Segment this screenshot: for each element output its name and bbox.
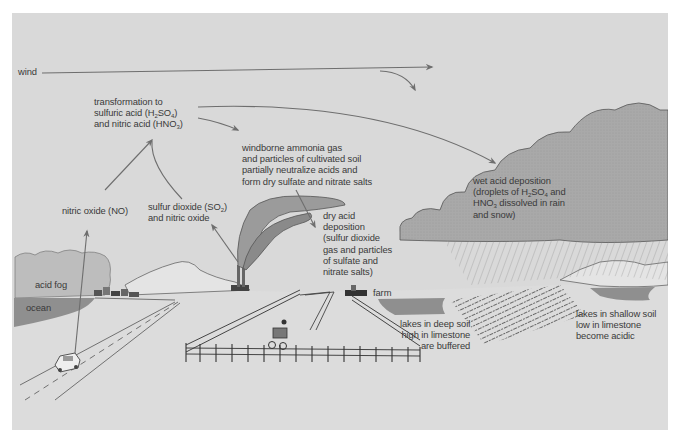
shallow-lakes-label: lakes in shallow soil low in limestone b…: [576, 308, 656, 342]
farmhouse-icon: [345, 285, 367, 296]
wind-arrow: [42, 67, 432, 73]
transformation-line2: sulfuric acid (H2SO4): [94, 107, 183, 118]
sulfur-dioxide-label: sulfur dioxide (SO2) and nitric oxide: [148, 201, 227, 223]
wind-branch-arrow: [380, 71, 415, 90]
stack-to-so2-arrow: [212, 225, 238, 262]
ammonia-label: windborne ammonia gas and particles of c…: [242, 142, 372, 187]
so2-to-transformation-arrow: [152, 141, 182, 199]
wind-label: wind: [18, 66, 37, 77]
cloud-icon: [400, 103, 668, 243]
transformation-line1: transformation to: [94, 96, 183, 107]
wet-deposition-label: wet acid deposition (droplets of H2SO4 a…: [473, 175, 566, 220]
transformation-label: transformation to sulfuric acid (H2SO4) …: [94, 96, 183, 130]
deep-lakes-label: lakes in deep soil high in limestone are…: [400, 318, 470, 352]
ocean-label: ocean: [26, 302, 51, 313]
farm-label: farm: [373, 287, 391, 298]
transformation-line3: and nitric acid (HNO3): [94, 118, 183, 129]
transformation-to-ammonia-arrow: [198, 118, 238, 130]
diagram-panel: wind transformation to sulfuric acid (H2…: [12, 13, 668, 430]
acid-fog-label: acid fog: [35, 279, 67, 290]
nitric-oxide-label: nitric oxide (NO): [62, 205, 128, 216]
no-to-transformation-arrow: [105, 140, 152, 190]
dry-deposition-label: dry acid deposition (sulfur dioxide gas …: [323, 210, 392, 277]
